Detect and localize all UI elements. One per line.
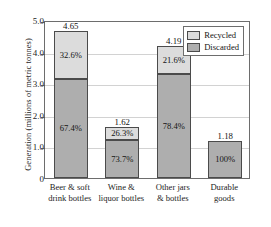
y-axis-tick-label: 2.0	[33, 111, 44, 121]
bar[interactable]: 78.4%21.6%	[157, 46, 191, 178]
x-axis-tick-label: Beer & softdrink bottles	[48, 182, 91, 203]
y-axis-tick-label: 4.0	[33, 48, 44, 58]
x-axis-tick-label: Durablegoods	[210, 182, 238, 203]
x-axis-tick-label-line: goods	[210, 193, 238, 204]
x-axis-tick-label-line: Other jars	[156, 182, 190, 193]
y-axis-tickmark	[41, 148, 45, 149]
bar-total-label: 4.65	[63, 22, 78, 31]
bar-total-label: 4.19	[166, 37, 181, 46]
bar-segment-discarded[interactable]: 78.4%	[157, 74, 191, 178]
bar-segment-percent-label: 67.4%	[60, 124, 82, 133]
x-axis-tick-label-line: Wine &	[98, 182, 144, 193]
x-axis-tick-label-line: Beer & soft	[48, 182, 91, 193]
x-axis-tick-label-line: & bottles	[156, 193, 190, 204]
legend-swatch-icon	[187, 43, 200, 52]
y-axis-tick-label: 3.0	[33, 79, 44, 89]
legend-item[interactable]: Recycled	[187, 29, 239, 41]
legend-item[interactable]: Discarded	[187, 41, 239, 53]
bar[interactable]: 100%	[208, 141, 242, 178]
x-axis-tick-label-line: liquor bottles	[98, 193, 144, 204]
chart-figure: Generation (millions of metric tonnes) 0…	[0, 0, 271, 227]
bar-segment-discarded[interactable]: 100%	[208, 141, 242, 178]
plot-area: 67.4%32.6%4.6573.7%26.3%1.6278.4%21.6%4.…	[44, 21, 250, 179]
y-axis-tick-label: 5.0	[33, 16, 44, 26]
bar-segment-percent-label: 32.6%	[60, 51, 82, 60]
y-axis-tickmark	[41, 117, 45, 118]
y-axis-tick-label: 1.0	[33, 142, 44, 152]
bar-segment-discarded[interactable]: 73.7%	[105, 140, 139, 178]
bar-segment-recycled[interactable]: 26.3%	[105, 127, 139, 141]
x-axis-tick-label-line: drink bottles	[48, 193, 91, 204]
bar-total-label: 1.18	[218, 132, 233, 141]
y-axis-tickmark	[41, 22, 45, 23]
y-axis-tick-labels: 01.02.03.04.05.0	[22, 0, 44, 227]
bar-segment-percent-label: 26.3%	[111, 129, 133, 138]
chart-legend: RecycledDiscarded	[183, 26, 244, 56]
x-axis-tick-labels: Beer & softdrink bottlesWine &liquor bot…	[44, 182, 250, 214]
bar-segment-discarded[interactable]: 67.4%	[54, 79, 88, 178]
bar-segment-percent-label: 78.4%	[163, 122, 185, 131]
bar[interactable]: 67.4%32.6%	[54, 31, 88, 178]
legend-item-label: Recycled	[204, 31, 236, 40]
y-axis-tickmark	[41, 85, 45, 86]
y-axis-tickmark	[41, 54, 45, 55]
x-axis-tick-label: Wine &liquor bottles	[98, 182, 144, 203]
bar-segment-recycled[interactable]: 32.6%	[54, 31, 88, 79]
legend-item-label: Discarded	[204, 43, 239, 52]
legend-swatch-icon	[187, 31, 200, 40]
bar-segment-percent-label: 73.7%	[111, 155, 133, 164]
bar[interactable]: 73.7%26.3%	[105, 127, 139, 178]
x-axis-tick-label: Other jars& bottles	[156, 182, 190, 203]
bar-segment-percent-label: 21.6%	[163, 56, 185, 65]
bar-total-label: 1.62	[115, 118, 130, 127]
bar-segment-percent-label: 100%	[215, 155, 235, 164]
x-axis-tick-label-line: Durable	[210, 182, 238, 193]
